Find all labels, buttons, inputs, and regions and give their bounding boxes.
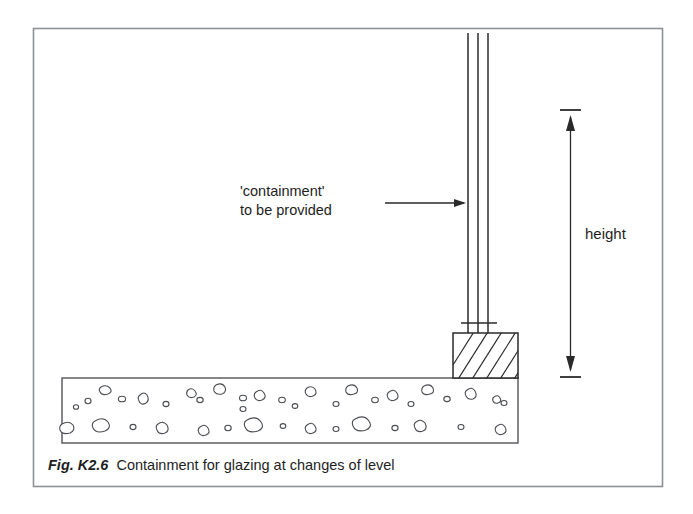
concrete-slab bbox=[60, 378, 518, 443]
height-dimension-arrow bbox=[560, 110, 581, 377]
containment-annotation: 'containment' to be provided bbox=[240, 182, 390, 220]
concrete-slab-outline bbox=[62, 378, 518, 443]
height-dimension-label: height bbox=[585, 225, 626, 242]
figure-container: 'containment' to be provided height Fig.… bbox=[0, 0, 693, 514]
diagram-canvas bbox=[0, 0, 693, 514]
containment-annotation-line1: 'containment' bbox=[240, 182, 390, 201]
figure-caption-title: Containment for glazing at changes of le… bbox=[116, 457, 394, 473]
glazing-panel bbox=[461, 33, 497, 333]
containment-leader-arrow bbox=[385, 199, 466, 207]
containment-annotation-line2: to be provided bbox=[240, 201, 390, 220]
figure-caption: Fig. K2.6 Containment for glazing at cha… bbox=[48, 457, 648, 481]
figure-number: Fig. K2.6 bbox=[48, 457, 108, 473]
containment-upstand-block bbox=[441, 327, 547, 384]
